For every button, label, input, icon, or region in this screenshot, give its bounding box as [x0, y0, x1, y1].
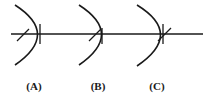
mirror-b — [79, 5, 102, 65]
mirror-a — [15, 5, 38, 65]
object-a — [17, 29, 29, 41]
label-b: (B) — [78, 80, 118, 92]
panel-a — [15, 5, 40, 65]
mirror-c — [137, 5, 161, 66]
panel-b — [79, 5, 102, 65]
object-b — [89, 29, 101, 41]
label-a: (A) — [14, 80, 54, 92]
label-c: (C) — [137, 80, 177, 92]
panel-c — [137, 5, 171, 66]
